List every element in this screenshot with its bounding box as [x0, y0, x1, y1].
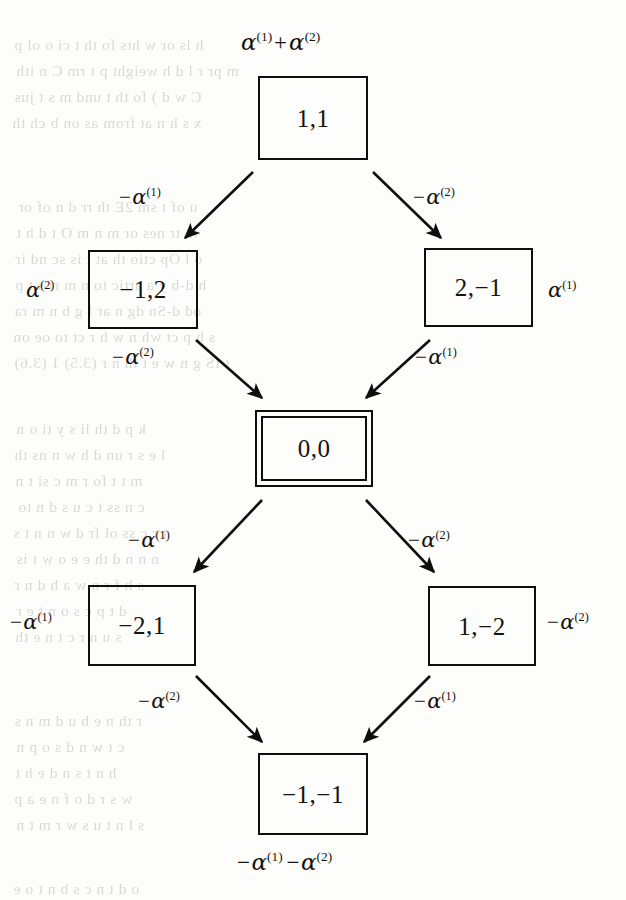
edge-label-mid-left-alpha: α: [125, 345, 139, 369]
edge-label-top-left-alpha: α: [132, 185, 146, 209]
caption-bottom-sup2: (2): [317, 849, 333, 864]
edge-label-mid-left-superscript: (2): [140, 345, 154, 359]
side-label-lower-left-side-superscript: (1): [38, 610, 52, 624]
bleed-through-line: m pr r l d h weight p t rm C n ith: [16, 62, 239, 80]
weight-node-upper-left: −1,2: [88, 250, 198, 329]
edge-label-low-right-superscript: (2): [436, 528, 450, 542]
weight-node-upper-right: 2,−1: [424, 248, 533, 327]
side-label-lower-right-side-alpha: α: [560, 610, 574, 634]
edge-label-bottom-left-minus: −: [138, 689, 150, 713]
weight-node-label-top: 1,1: [297, 106, 330, 131]
side-label-lower-right-side: −α(2): [547, 611, 589, 633]
bleed-through-line: n n n d th e e o w t is: [16, 550, 159, 568]
side-label-upper-right-side-superscript: (1): [562, 278, 576, 292]
bleed-through-line: c n ss t c u s d n to: [18, 498, 145, 516]
caption-top-sup1: (1): [257, 29, 273, 44]
side-label-lower-left-side: −α(1): [10, 611, 52, 633]
edge-label-mid-left: −α(2): [112, 346, 154, 368]
weight-node-label-upper-right: 2,−1: [455, 275, 502, 300]
edge-label-bottom-right-minus: −: [414, 689, 426, 713]
side-label-upper-right-side-alpha: α: [548, 278, 562, 302]
weight-node-label-bottom: −1,−1: [282, 782, 344, 807]
edge-label-bottom-left-superscript: (2): [166, 689, 180, 703]
bleed-through-line: l e s r un d h w n ns th: [14, 446, 165, 464]
bleed-through-line: c t w n d s o p n: [16, 738, 124, 756]
edge-label-top-left-superscript: (1): [147, 185, 161, 199]
edge-label-bottom-right: −α(1): [414, 690, 456, 712]
bleed-through-line: h ls or w hts fo th t ci o ol p: [14, 36, 204, 54]
edge-label-top-right-superscript: (2): [441, 185, 455, 199]
caption-bottom-alpha2: α: [301, 849, 317, 875]
edge-top-to-upper-left: [185, 172, 253, 238]
bleed-through-line: in tr nes or m n m O t d h t: [16, 224, 198, 242]
edge-upper-left-to-center: [196, 340, 262, 398]
weight-node-lower-right: 1,−2: [428, 586, 536, 666]
caption-bottom-sup1: (1): [267, 849, 283, 864]
bleed-through-line: C w d ) fo th t und m s t jus: [14, 88, 201, 106]
edge-label-bottom-right-alpha: α: [427, 689, 441, 713]
bleed-through-line: r th n e b u d m n s: [14, 712, 142, 730]
weight-node-top: 1,1: [258, 76, 368, 160]
weight-node-center: 0,0: [255, 410, 373, 487]
side-label-lower-right-side-superscript: (2): [575, 610, 589, 624]
caption-top-sup2: (2): [305, 29, 321, 44]
side-label-lower-right-side-minus: −: [547, 610, 559, 634]
bleed-through-line: k p d th li s y ti o n: [16, 420, 146, 438]
bleed-through-line: m t t fo r m c si t n: [15, 472, 143, 490]
side-label-upper-left-side-alpha: α: [26, 278, 40, 302]
edge-label-top-left-minus: −: [119, 185, 131, 209]
edge-label-low-left-alpha: α: [141, 528, 155, 552]
caption-top: α(1)+α(2): [241, 30, 320, 54]
edge-label-mid-right-alpha: α: [428, 345, 442, 369]
caption-bottom-minus1: −: [237, 850, 250, 875]
edge-label-low-right-minus: −: [408, 528, 420, 552]
caption-top-alpha1: α: [241, 29, 257, 55]
bleed-through-line: w s r d o f n e a p: [14, 790, 133, 808]
edge-label-mid-left-minus: −: [112, 345, 124, 369]
bleed-through-line: x s h n at from as on b ch th: [12, 114, 202, 132]
edge-label-top-right: −α(2): [413, 186, 455, 208]
side-label-upper-left-side: α(2): [26, 279, 54, 301]
weight-node-label-upper-left: −1,2: [119, 277, 166, 302]
edge-label-bottom-left: −α(2): [138, 690, 180, 712]
edge-label-low-left: −α(1): [128, 529, 170, 551]
edge-label-top-right-minus: −: [413, 185, 425, 209]
side-label-lower-left-side-alpha: α: [23, 610, 37, 634]
caption-bottom-alpha1: α: [251, 849, 267, 875]
caption-bottom-minus2: −: [287, 850, 300, 875]
bleed-through-line: s h p ct wh n w h r ct to oe on: [13, 328, 215, 346]
edge-label-low-left-superscript: (1): [156, 528, 170, 542]
edge-label-mid-right: −α(1): [415, 346, 457, 368]
edge-label-low-left-minus: −: [128, 528, 140, 552]
edge-lower-left-to-bottom: [196, 676, 262, 742]
weight-node-label-lower-right: 1,−2: [458, 614, 505, 639]
bleed-through-line: h n t s n d e h t: [15, 764, 116, 782]
caption-top-alpha2: α: [289, 29, 305, 55]
edge-label-mid-right-minus: −: [415, 345, 427, 369]
edge-label-top-left: −α(1): [119, 186, 161, 208]
edge-label-top-right-alpha: α: [426, 185, 440, 209]
edge-label-low-right: −α(2): [408, 529, 450, 551]
edge-center-to-lower-left: [194, 500, 262, 572]
edge-label-bottom-left-alpha: α: [151, 689, 165, 713]
edge-label-mid-right-superscript: (1): [443, 345, 457, 359]
side-label-upper-right-side: α(1): [548, 279, 576, 301]
caption-top-plus: +: [274, 30, 287, 55]
edge-label-bottom-right-superscript: (1): [442, 689, 456, 703]
bleed-through-line: o d t n c s b n t o e: [13, 880, 139, 898]
figure-page: h ls or w hts fo th t ci o ol pm pr r l …: [0, 0, 626, 900]
edge-label-low-right-alpha: α: [421, 528, 435, 552]
weight-node-label-center: 0,0: [298, 436, 331, 461]
side-label-upper-left-side-superscript: (2): [40, 278, 54, 292]
weight-node-label-lower-left: −2,1: [118, 613, 165, 638]
bleed-through-line: s l n t u s w r m t n: [16, 816, 144, 834]
weight-node-lower-left: −2,1: [88, 585, 196, 666]
weight-node-bottom: −1,−1: [258, 753, 368, 835]
caption-bottom: −α(1)−α(2): [237, 850, 332, 874]
bleed-through-line: u of t sm 2E th rr d n of or: [18, 198, 198, 216]
side-label-lower-left-side-minus: −: [10, 610, 22, 634]
